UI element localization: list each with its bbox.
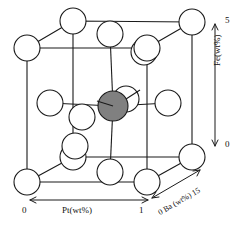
pt-axis-title: Pt(wt%) [62, 206, 92, 215]
fe-axis-title: Fe(wt%) [213, 35, 222, 67]
atom-face-right [155, 90, 181, 116]
pt-axis-arrow [30, 197, 148, 203]
atom-back-top-right [179, 9, 205, 35]
atom-front-face-bottom [97, 159, 123, 185]
atom-back-face-top [97, 21, 123, 47]
pt-axis-max-label: 1 [139, 206, 144, 215]
atom-face-left [37, 90, 63, 116]
fe-axis-min-label: 0 [225, 140, 230, 149]
atom-front-bottom-left [14, 169, 40, 195]
atom-front-top-right [134, 35, 160, 61]
fe-axis-max-label: 5 [225, 16, 230, 25]
atom-front-top-left [14, 35, 40, 61]
pt-axis-min-label: 0 [22, 206, 27, 215]
atom-back-top-left [60, 8, 86, 34]
atom-front-face-mid [62, 133, 88, 159]
atom-front-bottom-right [134, 169, 160, 195]
atom-back-bottom-right [179, 144, 205, 170]
atom-front-face-lower-left [69, 104, 95, 130]
unit-cell-figure: 0 Pt(wt%) 1 5 0 Fe(wt%) 0 Ba (wt%) 15 [0, 0, 237, 227]
